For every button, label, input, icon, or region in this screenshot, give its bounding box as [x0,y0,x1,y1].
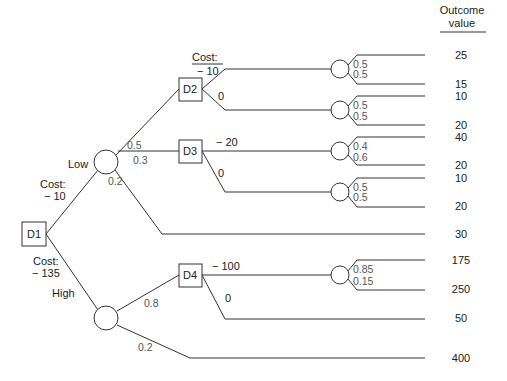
p-low-end: 0.2 [108,175,123,187]
decision-tree: Outcome value D1 D2 D3 D4 Low Cost: − 10 [0,0,507,381]
outcome-value: 15 [455,78,467,90]
outcome-value: 250 [452,283,470,295]
edge-d4-noact [202,275,425,319]
d2-label: D2 [183,83,197,95]
chance-node-c1 [331,60,349,78]
d3-noact-cost: 0 [218,167,224,179]
outcome-value: 50 [455,312,467,324]
p-c5-down: 0.15 [353,275,374,287]
p-c1-down: 0.5 [353,68,368,80]
high-cost-value: − 135 [32,267,60,279]
d3-act-cost: − 20 [216,136,238,148]
p-low-d3: 0.3 [133,154,148,166]
low-label: Low [68,158,88,170]
chance-node-low [94,150,118,174]
low-cost-label: Cost: [40,178,66,190]
outcome-value: 20 [455,200,467,212]
d4-act-cost: − 100 [212,260,240,272]
outcome-value: 175 [452,254,470,266]
outcome-value: 10 [455,90,467,102]
p-c2-down: 0.5 [353,110,368,122]
edge-high-end [117,325,425,358]
outcome-value: 40 [455,131,467,143]
low-cost-value: − 10 [44,190,66,202]
outcome-header-line2: value [449,17,475,29]
outcome-value: 30 [455,228,467,240]
high-label: High [52,287,75,299]
high-cost-label: Cost: [33,255,59,267]
outcome-value: 20 [455,159,467,171]
chance-node-c5 [331,266,349,284]
edge-low-end [115,170,425,234]
d1-label: D1 [27,228,41,240]
chance-node-c4 [331,183,349,201]
outcome-value: 400 [452,352,470,364]
d2-act-cost: − 10 [197,65,219,77]
d4-noact-cost: 0 [225,292,231,304]
edge-low-d2 [116,89,179,155]
p-c3-down: 0.6 [353,151,368,163]
edge-d2-act [202,69,331,89]
d2-noact-cost: 0 [218,90,224,102]
outcome-value: 10 [455,172,467,184]
p-c5-up: 0.85 [353,263,374,275]
p-high-end: 0.2 [138,341,153,353]
d3-label: D3 [183,145,197,157]
p-high-d4: 0.8 [144,297,159,309]
p-low-d2: 0.5 [127,139,142,151]
outcome-header-line1: Outcome [440,4,485,16]
outcome-value: 20 [455,119,467,131]
outcome-value: 25 [455,49,467,61]
chance-node-c3 [331,142,349,160]
d2-cost-label: Cost: [192,51,218,63]
d4-label: D4 [183,269,197,281]
chance-node-c2 [331,101,349,119]
chance-node-high [94,306,118,330]
p-c4-down: 0.5 [353,191,368,203]
